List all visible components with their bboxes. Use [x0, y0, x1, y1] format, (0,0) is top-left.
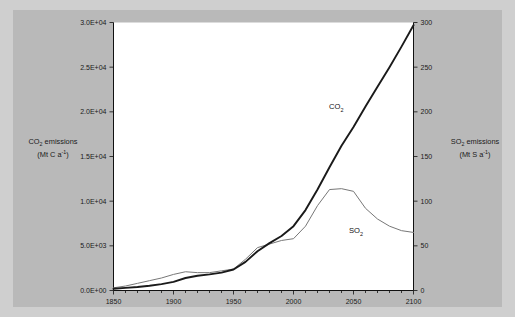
- y-tick-label-5000: 5.0E+03: [80, 242, 106, 249]
- plot-background: [114, 23, 414, 291]
- right-axis-title-line1: SO2 emissions: [451, 137, 500, 146]
- y2-tick-label-100: 100: [421, 198, 433, 205]
- y-tick-label-25000: 2.5E+04: [80, 64, 106, 71]
- y2-tick-label-200: 200: [421, 108, 433, 115]
- y2-tick-label-150: 150: [421, 153, 433, 160]
- y-tick-label-20000: 2.0E+04: [80, 108, 106, 115]
- y2-tick-label-0: 0: [421, 287, 425, 294]
- co2-series-label: CO2: [329, 102, 343, 113]
- x-tick-label-2050: 2050: [346, 298, 362, 305]
- y2-tick-label-300: 300: [421, 19, 433, 26]
- left-axis-title-line2: (Mt C a-1): [37, 150, 68, 159]
- x-tick-label-1850: 1850: [106, 298, 122, 305]
- right-axis-title-line2: (Mt S a-1): [459, 150, 490, 159]
- left-axis-title-line1: CO2 emissions: [29, 137, 78, 146]
- y2-tick-label-50: 50: [421, 242, 429, 249]
- y-tick-label-10000: 1.0E+04: [80, 198, 106, 205]
- figure-container: 1850190019502000205021000.0E+005.0E+031.…: [0, 0, 515, 317]
- right-axis-title: SO2 emissions (Mt S a-1): [437, 137, 513, 160]
- so2-series-label: SO2: [349, 226, 363, 237]
- x-tick-label-2100: 2100: [406, 298, 422, 305]
- x-tick-label-1900: 1900: [166, 298, 182, 305]
- y2-tick-label-250: 250: [421, 64, 433, 71]
- x-tick-label-1950: 1950: [226, 298, 242, 305]
- y-tick-label-0: 0.0E+00: [80, 287, 106, 294]
- x-tick-label-2000: 2000: [286, 298, 302, 305]
- y-tick-label-30000: 3.0E+04: [80, 19, 106, 26]
- left-axis-title: CO2 emissions (Mt C a-1): [14, 137, 92, 160]
